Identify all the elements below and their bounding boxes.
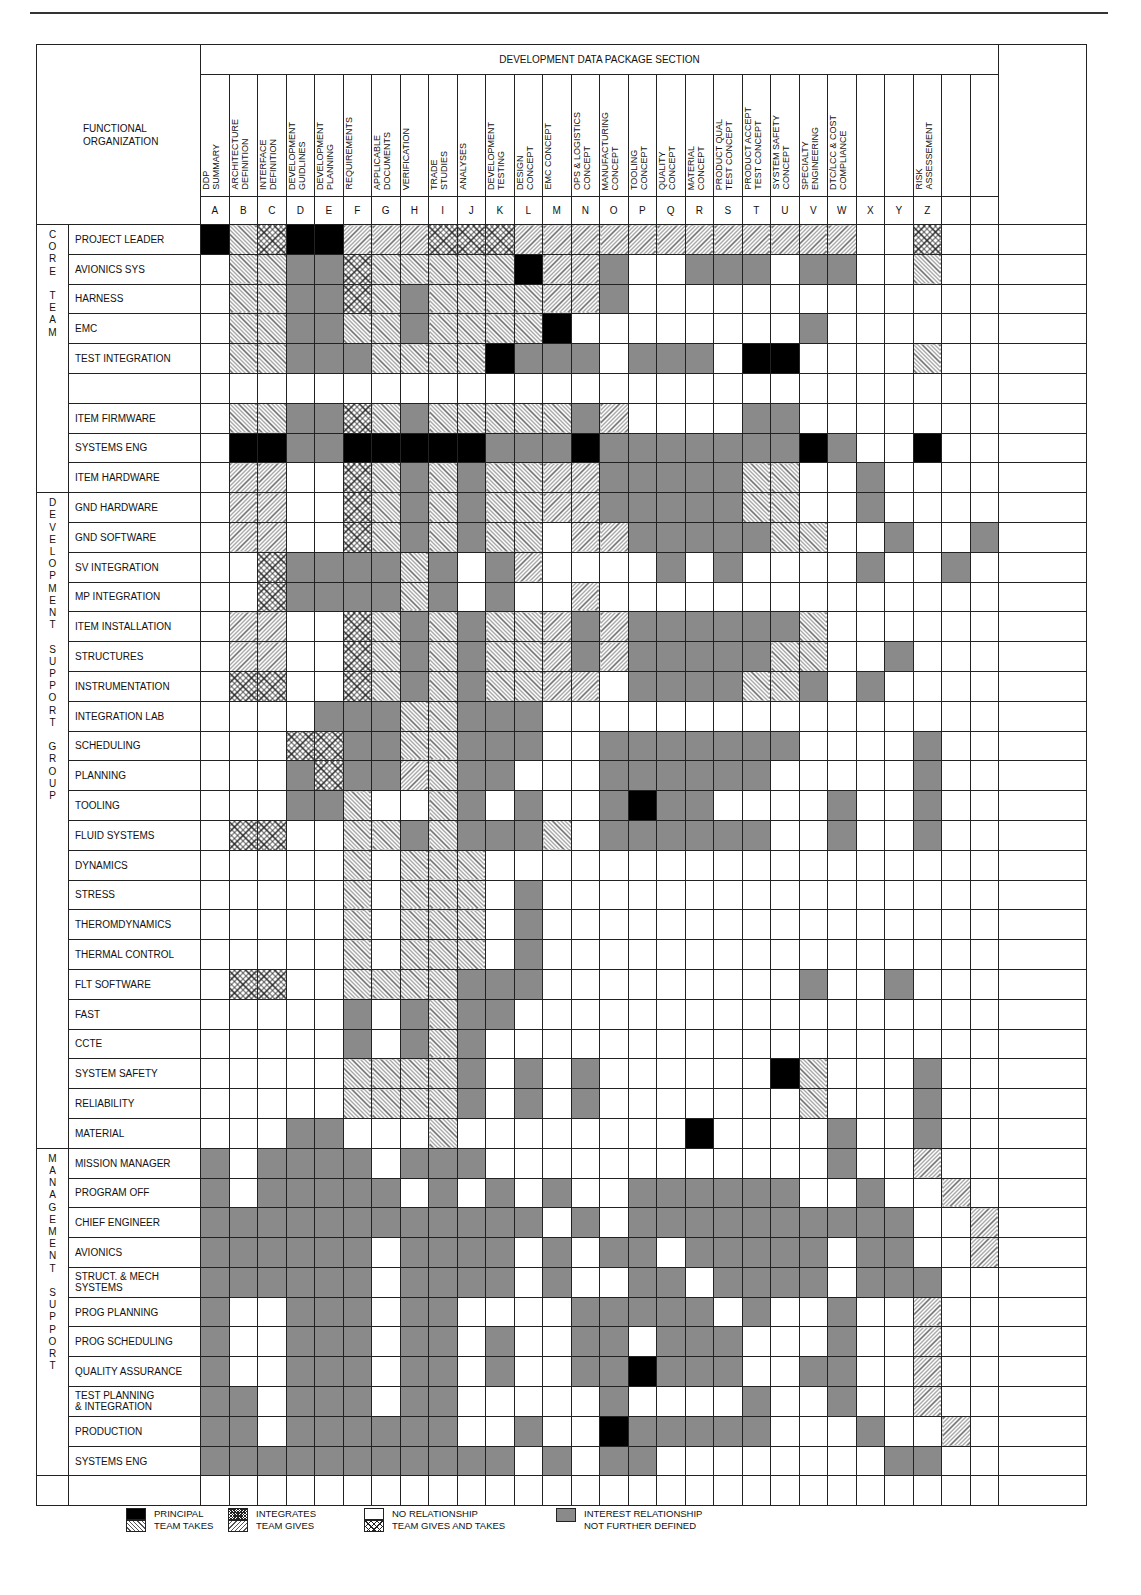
matrix-cell (486, 493, 515, 523)
matrix-cell (486, 433, 515, 463)
row-label: SYSTEMS ENG (69, 433, 201, 463)
matrix-cell (913, 1267, 942, 1297)
matrix-cell (514, 1416, 543, 1446)
matrix-cell (970, 403, 999, 433)
matrix-cell (315, 880, 344, 910)
matrix-cell (514, 1208, 543, 1238)
matrix-cell (543, 1446, 572, 1476)
matrix-cell (799, 284, 828, 314)
matrix-cell (258, 1446, 287, 1476)
matrix-cell (742, 373, 771, 403)
matrix-cell (885, 969, 914, 999)
matrix-cell (885, 910, 914, 940)
matrix-cell (400, 463, 429, 493)
matrix-cell (657, 463, 686, 493)
matrix-cell (657, 1238, 686, 1268)
matrix-cell (543, 373, 572, 403)
matrix-cell (229, 940, 258, 970)
matrix-cell (856, 1476, 885, 1506)
matrix-cell (486, 373, 515, 403)
matrix-cell (913, 671, 942, 701)
matrix-cell (799, 403, 828, 433)
matrix-cell (771, 582, 800, 612)
column-header: DESIGN CONCEPT (514, 75, 543, 197)
column-label: DEVELOPMENT TESTING (486, 118, 507, 194)
matrix-cell (315, 373, 344, 403)
matrix-cell (286, 254, 315, 284)
matrix-cell (543, 1178, 572, 1208)
matrix-cell (600, 344, 629, 374)
matrix-cell (201, 999, 230, 1029)
matrix-cell (799, 344, 828, 374)
matrix-cell (201, 940, 230, 970)
matrix-cell (315, 671, 344, 701)
matrix-row: ITEM HARDWARE (37, 463, 1087, 493)
matrix-cell (429, 1357, 458, 1387)
matrix-cell (429, 1059, 458, 1089)
matrix-cell (657, 403, 686, 433)
column-label (971, 186, 972, 194)
matrix-cell (571, 403, 600, 433)
row-label: PROG PLANNING (69, 1297, 201, 1327)
matrix-cell (942, 999, 971, 1029)
matrix-cell (571, 582, 600, 612)
matrix-cell (229, 493, 258, 523)
matrix-cell (457, 820, 486, 850)
legend-interest: INTEREST RELATIONSHIP NOT FURTHER DEFINE… (556, 1508, 702, 1532)
matrix-cell (771, 552, 800, 582)
matrix-row: SYSTEM SAFETY (37, 1059, 1087, 1089)
matrix-cell (258, 1387, 287, 1417)
matrix-cell (486, 761, 515, 791)
matrix-cell (942, 761, 971, 791)
matrix-cell (258, 999, 287, 1029)
blank-margin (999, 1238, 1087, 1268)
matrix-cell (400, 850, 429, 880)
blank-margin (999, 45, 1087, 225)
matrix-cell (970, 1416, 999, 1446)
matrix-cell (514, 433, 543, 463)
matrix-cell (343, 701, 372, 731)
matrix-cell (913, 642, 942, 672)
matrix-cell (913, 850, 942, 880)
matrix-cell (286, 671, 315, 701)
matrix-cell (201, 731, 230, 761)
matrix-cell (372, 344, 401, 374)
matrix-cell (457, 552, 486, 582)
matrix-cell (258, 344, 287, 374)
blank-margin (999, 1029, 1087, 1059)
matrix-cell (229, 344, 258, 374)
matrix-cell (343, 1208, 372, 1238)
matrix-cell (372, 642, 401, 672)
matrix-cell (429, 940, 458, 970)
matrix-cell (970, 284, 999, 314)
matrix-cell (885, 612, 914, 642)
matrix-cell (600, 969, 629, 999)
matrix-cell (258, 850, 287, 880)
matrix-cell (628, 612, 657, 642)
matrix-cell (457, 612, 486, 642)
matrix-cell (429, 493, 458, 523)
matrix-cell (600, 373, 629, 403)
matrix-cell (942, 940, 971, 970)
matrix-cell (571, 284, 600, 314)
matrix-cell (600, 999, 629, 1029)
matrix-cell (258, 791, 287, 821)
matrix-cell (229, 1357, 258, 1387)
matrix-cell (856, 999, 885, 1029)
functional-organization-header: FUNCTIONAL ORGANIZATION (37, 45, 201, 225)
matrix-cell (286, 1416, 315, 1446)
matrix-cell (799, 671, 828, 701)
matrix-cell (486, 1059, 515, 1089)
matrix-cell (229, 761, 258, 791)
matrix-cell (400, 1148, 429, 1178)
matrix-cell (628, 969, 657, 999)
section-title: DEVELOPMENT DATA PACKAGE SECTION (201, 45, 999, 75)
matrix-cell (742, 254, 771, 284)
matrix-cell (885, 1357, 914, 1387)
matrix-cell (315, 1297, 344, 1327)
matrix-cell (714, 403, 743, 433)
matrix-cell (942, 671, 971, 701)
matrix-cell (799, 910, 828, 940)
blank-margin (999, 1446, 1087, 1476)
matrix-cell (942, 850, 971, 880)
